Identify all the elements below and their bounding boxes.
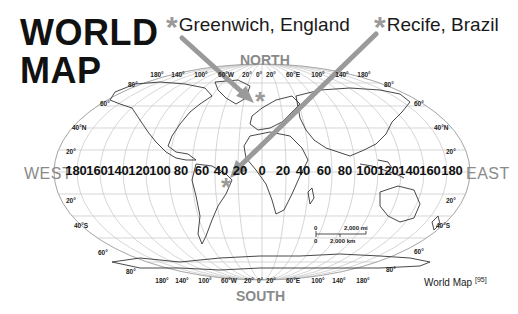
latitude-label-left: 40°S	[74, 222, 88, 229]
lon-label: 120	[128, 163, 150, 178]
greenwich-star-icon: *	[255, 86, 266, 116]
scale-zero-bottom: 0	[314, 238, 317, 244]
meridian-label-bottom: 20°	[244, 277, 254, 284]
star-icon: *	[166, 10, 178, 43]
meridian-label-top: 180°	[357, 71, 370, 78]
lon-label: 40	[214, 163, 228, 178]
page-title: WORLD MAP	[20, 14, 158, 90]
meridian-label-top: 20°	[266, 71, 276, 78]
latitude-label-right: 40°S	[436, 222, 450, 229]
latitude-label-left: 60°	[98, 249, 108, 256]
meridian-label-bottom: 140°	[175, 277, 188, 284]
latitude-label-right: 80°	[384, 81, 394, 88]
lon-label: 180	[65, 163, 87, 178]
meridian-label-bottom: 140°	[332, 277, 345, 284]
latitude-label-left: 40°N	[72, 124, 87, 131]
lon-label: 140	[107, 163, 129, 178]
meridian-label-top: 0°	[256, 71, 262, 78]
credit-ref: [95]	[475, 276, 487, 283]
lon-label: 120	[377, 163, 399, 178]
direction-south: SOUTH	[236, 288, 285, 304]
meridian-label-top: 100°	[311, 71, 324, 78]
latitude-label-right: 80°	[386, 266, 396, 273]
meridian-label-top: 60°W	[218, 71, 234, 78]
callout-recife-label: Recife, Brazil	[387, 14, 499, 35]
meridian-label-top: 20°	[242, 71, 252, 78]
direction-east: EAST	[466, 165, 510, 183]
credit-text: World Map	[424, 277, 472, 288]
lon-label: 100	[149, 163, 171, 178]
latitude-label-left: 20°	[66, 197, 76, 204]
lon-label: 140	[398, 163, 420, 178]
meridian-label-top: 140°	[335, 71, 348, 78]
meridian-label-bottom: 180°	[155, 277, 168, 284]
latitude-label-left: 80°	[128, 81, 138, 88]
lon-label: 180	[441, 163, 463, 178]
meridian-label-bottom: 60°E	[286, 277, 300, 284]
lon-label: 0	[258, 163, 265, 178]
meridian-label-bottom: 180°	[356, 277, 369, 284]
star-icon: *	[374, 10, 386, 43]
callout-greenwich: *Greenwich, England	[166, 10, 350, 44]
lon-label: 40	[296, 163, 310, 178]
lon-label: 80	[338, 163, 352, 178]
scale-km: 2,000 km	[330, 238, 355, 244]
title-line-1: WORLD	[20, 14, 158, 52]
meridian-label-top: 60°E	[286, 71, 300, 78]
meridian-label-top: 140°	[171, 71, 184, 78]
scale-miles: 2,000 mi	[344, 225, 368, 231]
meridian-label-top: 180°	[150, 71, 163, 78]
lon-label: 60	[317, 163, 331, 178]
longitude-axis: 180 160 140 120 100 80 60 40 20 0 20 40 …	[62, 163, 462, 183]
lon-label: 100	[356, 163, 378, 178]
image-credit: World Map [95]	[424, 276, 487, 288]
latitude-label-right: 60°	[414, 100, 424, 107]
latitude-label-left: 20°	[66, 148, 76, 155]
callout-recife: *Recife, Brazil	[374, 10, 499, 44]
lon-label: 160	[419, 163, 441, 178]
latitude-label-left: 60°	[100, 100, 110, 107]
meridian-label-bottom: 100°	[198, 277, 211, 284]
meridian-label-bottom: 0°	[257, 277, 263, 284]
meridian-label-top: 100°	[194, 71, 207, 78]
latitude-label-right: 40°N	[434, 124, 449, 131]
latitude-label-right: 20°	[446, 197, 456, 204]
scale-zero-top: 0	[314, 225, 317, 231]
meridian-label-bottom: 20°	[266, 277, 276, 284]
direction-north: NORTH	[240, 52, 290, 68]
callout-greenwich-label: Greenwich, England	[179, 14, 350, 35]
lon-label: 20	[276, 163, 290, 178]
latitude-label-left: 80°	[126, 268, 136, 275]
meridian-label-bottom: 60°W	[221, 277, 237, 284]
lon-label: 80	[174, 163, 188, 178]
lon-label: 20	[233, 163, 247, 178]
meridian-label-bottom: 100°	[311, 277, 324, 284]
latitude-label-right: 60°	[414, 248, 424, 255]
lon-label: 60	[195, 163, 209, 178]
latitude-label-right: 20°	[446, 148, 456, 155]
lon-label: 160	[86, 163, 108, 178]
